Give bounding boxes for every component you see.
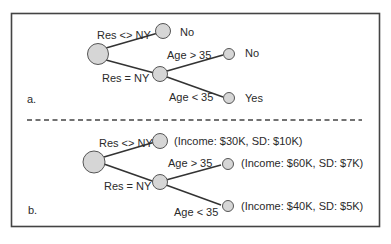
edge-label-res-not-ny: Res <> NY <box>97 29 151 41</box>
leaf-label-age-lt: (Income: $40K, SD: $5K) <box>241 200 363 212</box>
decision-tree-figure: Res <> NY Res = NY Age > 35 Age < 35 No … <box>0 0 391 244</box>
edge-label-age-lt: Age < 35 <box>169 91 213 103</box>
edge-label-res-ny: Res = NY <box>104 180 152 192</box>
leaf-node-age-lt <box>223 201 234 212</box>
panel-label-b: b. <box>28 204 37 216</box>
edge-label-age-gt: Age > 35 <box>168 157 212 169</box>
leaf-node-res-not-ny <box>156 24 171 39</box>
leaf-label-res-not-ny: No <box>180 26 194 38</box>
panel-label-a: a. <box>27 93 36 105</box>
figure-frame <box>12 14 380 227</box>
leaf-node-res-not-ny <box>153 134 168 149</box>
leaf-label-age-lt: Yes <box>245 92 263 104</box>
edge-label-res-not-ny: Res <> NY <box>99 137 153 149</box>
split-node-res-ny <box>153 67 168 82</box>
leaf-label-age-gt: No <box>245 47 259 59</box>
split-node-res-ny <box>153 175 168 190</box>
edge-label-res-ny: Res = NY <box>102 72 150 84</box>
leaf-node-age-gt <box>223 159 234 170</box>
leaf-node-age-lt <box>224 93 235 104</box>
leaf-label-res-not-ny: (Income: $30K, SD: $10K) <box>174 135 302 147</box>
edge-label-age-lt: Age < 35 <box>174 206 218 218</box>
root-node <box>88 44 109 65</box>
edge-label-age-gt: Age > 35 <box>167 49 211 61</box>
leaf-node-age-gt <box>224 49 235 60</box>
root-node <box>83 151 105 173</box>
leaf-label-age-gt: (Income: $60K, SD: $7K) <box>241 157 363 169</box>
